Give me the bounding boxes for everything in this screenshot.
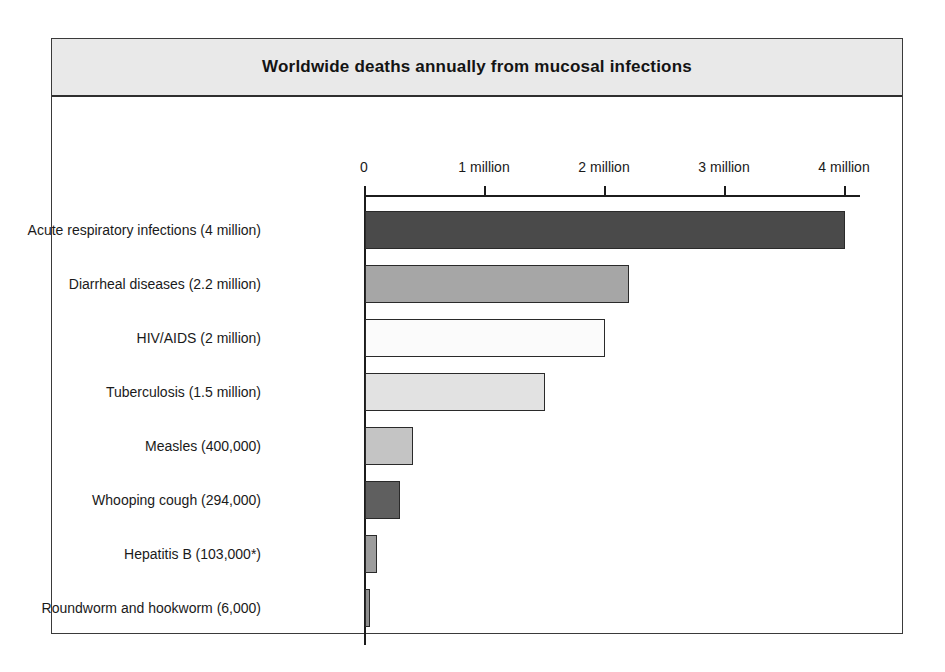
- bar-row: Measles (400,000): [52, 427, 902, 465]
- bar-category-label: Acute respiratory infections (4 million): [28, 222, 261, 238]
- bar: [365, 211, 845, 249]
- bar: [365, 535, 377, 573]
- x-axis-tick: [844, 186, 846, 195]
- page-title: Worldwide deaths annually from mucosal i…: [262, 57, 692, 77]
- bar: [365, 589, 370, 627]
- bar-row: Acute respiratory infections (4 million): [52, 211, 902, 249]
- bar: [365, 427, 413, 465]
- x-axis-tick-label: 4 million: [818, 159, 869, 175]
- x-axis-line: [364, 195, 860, 197]
- bar-category-label: HIV/AIDS (2 million): [137, 330, 261, 346]
- chart-figure: Worldwide deaths annually from mucosal i…: [51, 38, 903, 634]
- x-axis-tick: [724, 186, 726, 195]
- bar: [365, 319, 605, 357]
- x-axis-tick: [364, 186, 366, 195]
- bar-category-label: Whooping cough (294,000): [92, 492, 261, 508]
- x-axis-tick-label: 1 million: [458, 159, 509, 175]
- x-axis-tick: [484, 186, 486, 195]
- bar-category-label: Hepatitis B (103,000*): [124, 546, 261, 562]
- chart-title-band: Worldwide deaths annually from mucosal i…: [52, 39, 902, 97]
- x-axis-tick-label: 3 million: [698, 159, 749, 175]
- bar-row: Whooping cough (294,000): [52, 481, 902, 519]
- bar: [365, 373, 545, 411]
- bar-row: Diarrheal diseases (2.2 million): [52, 265, 902, 303]
- y-axis-line: [364, 195, 366, 645]
- bar-category-label: Roundworm and hookworm (6,000): [42, 600, 261, 616]
- bar-row: Tuberculosis (1.5 million): [52, 373, 902, 411]
- bar-category-label: Diarrheal diseases (2.2 million): [69, 276, 261, 292]
- x-axis-tick: [604, 186, 606, 195]
- bar: [365, 265, 629, 303]
- bar-category-label: Tuberculosis (1.5 million): [106, 384, 261, 400]
- x-axis-tick-label: 0: [360, 159, 368, 175]
- bar-row: Roundworm and hookworm (6,000): [52, 589, 902, 627]
- bar-category-label: Measles (400,000): [145, 438, 261, 454]
- x-axis-tick-label: 2 million: [578, 159, 629, 175]
- bar: [365, 481, 400, 519]
- bar-row: Hepatitis B (103,000*): [52, 535, 902, 573]
- bar-row: HIV/AIDS (2 million): [52, 319, 902, 357]
- plot-area: 01 million2 million3 million4 million Ac…: [52, 97, 902, 633]
